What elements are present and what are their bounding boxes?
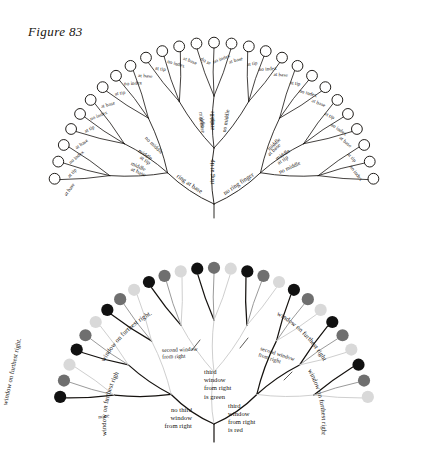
- center-label-line: from right: [165, 422, 193, 429]
- tree-label: at tip: [114, 89, 126, 97]
- tree-leaf-node: [307, 70, 318, 81]
- tree-label: at base: [228, 55, 244, 65]
- tree-leaf-node: [53, 156, 64, 167]
- tree-leaf-node: [174, 41, 185, 52]
- tree-label: at tip: [209, 118, 215, 130]
- tree-leaf-node: [343, 109, 354, 120]
- center-label-line: window: [170, 414, 192, 421]
- tree-leaf-node-filled: [101, 304, 113, 316]
- tree-label: at base: [138, 72, 153, 79]
- tree-leaf-node: [75, 109, 86, 120]
- tree-leaf-node-filled: [79, 329, 91, 341]
- tree-leaf-node-filled: [345, 343, 357, 355]
- tree-leaf-node-filled: [58, 374, 70, 386]
- tree-leaf-node: [292, 60, 303, 71]
- center-label-line: no third: [171, 406, 193, 413]
- tree-leaf-node: [125, 60, 136, 71]
- tree-leaf-node-filled: [90, 316, 102, 328]
- tree-label: no index: [124, 79, 143, 86]
- tree-leaf-node-filled: [191, 263, 203, 275]
- tree-leaf-node: [364, 156, 375, 167]
- tree-leaf-node: [191, 38, 202, 49]
- tree-leaf-node: [111, 70, 122, 81]
- tree-leaf-node-filled: [273, 276, 285, 288]
- tree-leaf-node-filled: [302, 293, 314, 305]
- tree-leaf-node: [85, 95, 96, 106]
- tree-arc-label: window on furthest right: [0, 228, 120, 436]
- tree-leaf-node-filled: [225, 263, 237, 275]
- tree-leaf-node: [141, 52, 152, 63]
- tree-leaf-node-filled: [241, 265, 253, 277]
- center-label-line: third: [228, 402, 241, 409]
- tree-leaf-node: [226, 38, 237, 49]
- tree-leaf-node-filled: [114, 293, 126, 305]
- center-label-line: window: [204, 376, 226, 383]
- tree-label: at base: [311, 97, 327, 108]
- tree-leaf-node-filled: [257, 270, 269, 282]
- tree-label: no middle: [221, 109, 231, 133]
- tree-label: at tip: [346, 151, 358, 163]
- tree-leaf-node-filled: [288, 284, 300, 296]
- tree-leaf-node: [320, 82, 331, 93]
- tree-label: at tip: [324, 110, 337, 120]
- tree-leaf-node: [58, 140, 69, 151]
- tree-leaf-node-filled: [158, 270, 170, 282]
- tree-label: no index: [299, 87, 318, 98]
- tree-label: at base: [338, 135, 353, 149]
- tree-leaf-node: [49, 173, 60, 184]
- tree-leaf-node-filled: [326, 316, 338, 328]
- tree-leaf-node: [332, 95, 343, 106]
- second-window-label-line: second window: [162, 346, 199, 353]
- tree-leaf-node: [157, 46, 168, 57]
- tree-label: at tip: [289, 79, 301, 87]
- figure-83-root: Figure 83 ring at basemiddleat baseat ba…: [0, 0, 428, 460]
- tree-label: at tip: [83, 123, 96, 133]
- tree-leaf-node: [209, 37, 220, 48]
- tree-leaf-node-filled: [362, 391, 374, 403]
- tree-leaf-node: [97, 82, 108, 93]
- center-label-line: from right: [228, 418, 256, 425]
- tree-leaf-node: [368, 173, 379, 184]
- tree-leaf-node-filled: [143, 276, 155, 288]
- tree-leaf-node-filled: [208, 262, 220, 274]
- tree-leaf-node-filled: [336, 329, 348, 341]
- tree-label: at base: [100, 99, 116, 109]
- tree-label: at tip: [155, 65, 167, 73]
- tree-label: at tip: [199, 57, 212, 67]
- center-label-none: none: [98, 412, 110, 420]
- center-label-line: third: [204, 368, 217, 375]
- tree-label: no index: [330, 121, 349, 136]
- lower-radial-tree: window on furthest right.window on furth…: [0, 228, 428, 460]
- tree-leaf-node-filled: [175, 265, 187, 277]
- tree-leaf-node: [359, 140, 370, 151]
- tree-label: no ring finger: [222, 170, 256, 196]
- tree-arc-label: window on furthest right.: [99, 309, 153, 363]
- tree-label: at tip: [246, 59, 258, 67]
- tree-leaf-node-filled: [54, 391, 66, 403]
- tree-leaf-node: [243, 41, 254, 52]
- tree-leaf-node-filled: [128, 284, 140, 296]
- upper-radial-tree: ring at basemiddleat baseat baseat tipno…: [0, 0, 428, 232]
- tree-leaf-node: [66, 124, 77, 135]
- tree-leaf-node-filled: [71, 343, 83, 355]
- tree-leaf-node-filled: [315, 304, 327, 316]
- second-window-label-line: from right: [162, 353, 186, 360]
- tree-label: no index: [89, 109, 108, 121]
- left-vertical-label: window on furthest right.: [1, 337, 22, 406]
- center-label-line: window: [228, 410, 250, 417]
- tree-leaf-node-filled: [63, 359, 75, 371]
- tree-label: at tip: [66, 166, 78, 178]
- tree-leaf-node-filled: [352, 359, 364, 371]
- tree-label: at base: [74, 137, 90, 150]
- center-label-line: from right: [204, 384, 232, 391]
- tree-leaf-node: [277, 52, 288, 63]
- tree-leaf-node: [352, 124, 363, 135]
- tree-leaf-node: [260, 46, 271, 57]
- tree-label: no index: [67, 148, 85, 165]
- tree-label: at base: [62, 181, 76, 197]
- lower-branch-group: [66, 274, 361, 442]
- center-label-line: is green: [204, 393, 226, 400]
- center-label-line: is red: [228, 426, 243, 433]
- tree-leaf-node-filled: [358, 374, 370, 386]
- tree-label: at base: [273, 71, 288, 78]
